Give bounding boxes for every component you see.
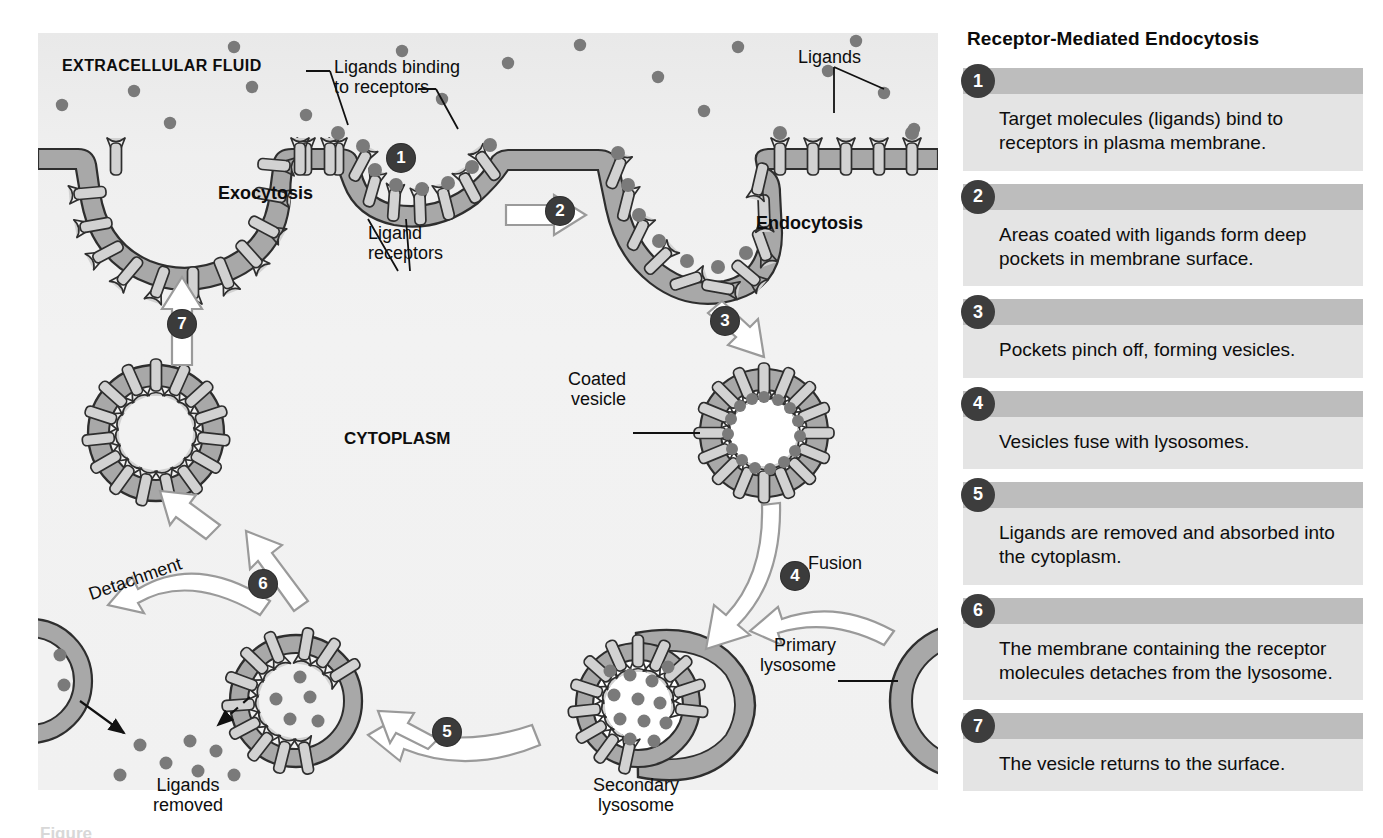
diagram-badge-5[interactable]: 5 (432, 717, 462, 747)
exocytosis-label: Exocytosis (218, 183, 313, 203)
recycling-vesicle (81, 359, 230, 507)
step-text: Vesicles fuse with lysosomes. (963, 417, 1363, 469)
step-header: 6 (963, 598, 1363, 624)
step-text: The membrane containing the receptor mol… (963, 624, 1363, 701)
diagram-badge-1[interactable]: 1 (386, 143, 416, 173)
ligand-receptors-label: Ligand receptors (368, 223, 443, 263)
step-item: 5 Ligands are removed and absorbed into … (963, 482, 1363, 585)
panel-title: Receptor-Mediated Endocytosis (967, 28, 1363, 50)
free-ligands (56, 35, 920, 135)
step-badge: 4 (961, 387, 995, 421)
primary-lysosome-label: Primary lysosome (686, 635, 836, 675)
step-item: 6 The membrane containing the receptor m… (963, 598, 1363, 701)
cytoplasm-label: CYTOPLASM (344, 429, 450, 448)
membrane-receptors-left (107, 138, 347, 175)
ligands-removed-label: Ligands removed (98, 775, 278, 815)
step-header: 7 (963, 713, 1363, 739)
step-badge: 5 (961, 478, 995, 512)
coated-vesicle (694, 363, 834, 503)
step-text: Pockets pinch off, forming vesicles. (963, 325, 1363, 377)
diagram-badge-3[interactable]: 3 (710, 306, 740, 336)
step-badge: 1 (961, 64, 995, 98)
extracellular-fluid-label: EXTRACELLULAR FLUID (62, 57, 262, 75)
step-text: The vesicle returns to the surface. (963, 739, 1363, 791)
figure-caption: Figure (40, 824, 600, 838)
coated-vesicle-label: Coated vesicle (486, 369, 626, 409)
diagram-badge-7[interactable]: 7 (167, 309, 197, 339)
endocytosis-label: Endocytosis (756, 213, 863, 233)
lysosome-remnant (38, 619, 124, 743)
step-badge: 6 (961, 594, 995, 628)
step-text: Areas coated with ligands form deep pock… (963, 210, 1363, 287)
step-badge: 3 (961, 295, 995, 329)
endocytosis-diagram-panel: EXTRACELLULAR FLUID CYTOPLASM Exocytosis… (38, 33, 938, 790)
steps-panel: Receptor-Mediated Endocytosis 1 Target m… (963, 28, 1363, 818)
step-item: 3 Pockets pinch off, forming vesicles. (963, 299, 1363, 377)
step-item: 4 Vesicles fuse with lysosomes. (963, 391, 1363, 469)
step-header: 2 (963, 184, 1363, 210)
step-header: 5 (963, 482, 1363, 508)
diagram-badge-2[interactable]: 2 (545, 196, 575, 226)
step-badge: 2 (961, 180, 995, 214)
detaching-vesicle (218, 627, 364, 776)
ligands-label: Ligands (798, 47, 861, 67)
step-item: 2 Areas coated with ligands form deep po… (963, 184, 1363, 287)
fusion-label: Fusion (808, 553, 862, 573)
step-badge: 7 (961, 709, 995, 743)
step-item: 7 The vesicle returns to the surface. (963, 713, 1363, 791)
secondary-lysosome-label: Secondary lysosome (536, 775, 736, 815)
endocytosis-diagram-graphic (38, 33, 938, 790)
step-item: 1 Target molecules (ligands) bind to rec… (963, 68, 1363, 171)
ligands-binding-label: Ligands binding to receptors (334, 57, 460, 97)
step-text: Target molecules (ligands) bind to recep… (963, 94, 1363, 171)
primary-lysosome (890, 623, 938, 779)
diagram-badge-6[interactable]: 6 (248, 569, 278, 599)
diagram-badge-4[interactable]: 4 (780, 561, 810, 591)
step-text: Ligands are removed and absorbed into th… (963, 508, 1363, 585)
step-header: 3 (963, 299, 1363, 325)
step-header: 1 (963, 68, 1363, 94)
step-header: 4 (963, 391, 1363, 417)
